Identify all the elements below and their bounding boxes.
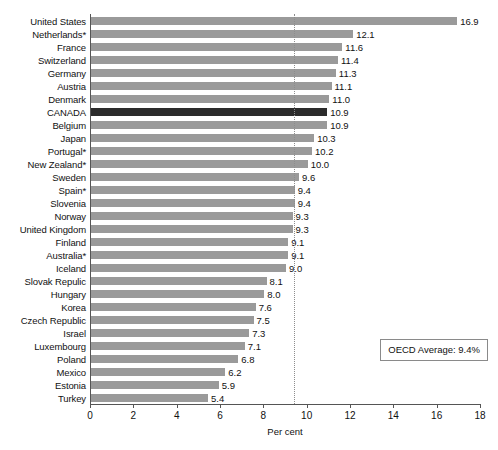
bar-row: Korea7.6 xyxy=(0,301,498,314)
bar xyxy=(91,277,267,285)
category-label: Sweden xyxy=(0,171,86,184)
bar xyxy=(91,186,295,194)
x-axis-tick xyxy=(393,404,394,408)
category-label: Estonia xyxy=(0,379,86,392)
bar-highlight xyxy=(91,108,327,116)
x-axis-tick xyxy=(90,404,91,408)
category-label: Norway xyxy=(0,210,86,223)
bar xyxy=(91,264,286,272)
x-axis-tick-label: 16 xyxy=(417,409,457,422)
bar-row: France11.6 xyxy=(0,41,498,54)
bar-value-label: 7.5 xyxy=(257,314,270,327)
bar-value-label: 5.9 xyxy=(222,379,235,392)
x-axis-tick xyxy=(437,404,438,408)
bar-value-label: 10.9 xyxy=(330,106,349,119)
category-label: Japan xyxy=(0,132,86,145)
bar-row: Denmark11.0 xyxy=(0,93,498,106)
bar xyxy=(91,342,245,350)
bar xyxy=(91,173,299,181)
x-axis-tick-label: 8 xyxy=(243,409,283,422)
bar-value-label: 10.3 xyxy=(317,132,336,145)
bar xyxy=(91,43,342,51)
bar xyxy=(91,17,457,25)
x-axis-tick xyxy=(307,404,308,408)
bar-row: Australia*9.1 xyxy=(0,249,498,262)
x-axis-tick xyxy=(350,404,351,408)
category-label: Belgium xyxy=(0,119,86,132)
bar-value-label: 6.8 xyxy=(241,353,254,366)
bar-value-label: 10.2 xyxy=(315,145,334,158)
bar-row: Norway9.3 xyxy=(0,210,498,223)
bar-row: United Kingdom9.3 xyxy=(0,223,498,236)
bar-row: Spain*9.4 xyxy=(0,184,498,197)
bar-row: Iceland9.0 xyxy=(0,262,498,275)
category-label: Poland xyxy=(0,353,86,366)
bar-row: Germany11.3 xyxy=(0,67,498,80)
bar-value-label: 7.6 xyxy=(259,301,272,314)
category-label: France xyxy=(0,41,86,54)
bar-value-label: 7.1 xyxy=(248,340,261,353)
x-axis-tick-label: 12 xyxy=(330,409,370,422)
x-axis-tick-label: 2 xyxy=(113,409,153,422)
x-axis-title: Per cent xyxy=(90,426,480,437)
bar xyxy=(91,134,314,142)
category-label: CANADA xyxy=(0,106,86,119)
bar-value-label: 9.4 xyxy=(298,197,311,210)
bar-value-label: 16.9 xyxy=(460,15,479,28)
bar-value-label: 11.6 xyxy=(345,41,363,54)
bar xyxy=(91,69,336,77)
bar-row: Czech Republic7.5 xyxy=(0,314,498,327)
bar-row: Mexico6.2 xyxy=(0,366,498,379)
bar-value-label: 8.1 xyxy=(270,275,283,288)
bar-row: Netherlands*12.1 xyxy=(0,28,498,41)
category-label: Luxembourg xyxy=(0,340,86,353)
bar xyxy=(91,251,288,259)
bar-row: Belgium10.9 xyxy=(0,119,498,132)
x-axis-tick-label: 0 xyxy=(70,409,110,422)
category-label: Hungary xyxy=(0,288,86,301)
bar-row: United States16.9 xyxy=(0,15,498,28)
bar-row: Turkey5.4 xyxy=(0,392,498,405)
bar-value-label: 9.3 xyxy=(296,210,309,223)
bar xyxy=(91,160,308,168)
category-label: United States xyxy=(0,15,86,28)
bar-value-label: 11.4 xyxy=(341,54,359,67)
bar xyxy=(91,355,238,363)
category-label: Iceland xyxy=(0,262,86,275)
x-axis-tick xyxy=(263,404,264,408)
bar-value-label: 10.9 xyxy=(330,119,349,132)
category-label: Switzerland xyxy=(0,54,86,67)
bar xyxy=(91,368,225,376)
bar xyxy=(91,290,264,298)
bar-row: New Zealand*10.0 xyxy=(0,158,498,171)
bar xyxy=(91,381,219,389)
bar-value-label: 9.4 xyxy=(298,184,311,197)
bar xyxy=(91,212,293,220)
bar xyxy=(91,238,288,246)
category-label: Australia* xyxy=(0,249,86,262)
category-label: Germany xyxy=(0,67,86,80)
bar-row: Israel7.3 xyxy=(0,327,498,340)
bar-row: Portugal*10.2 xyxy=(0,145,498,158)
category-label: Netherlands* xyxy=(0,28,86,41)
bar-value-label: 11.3 xyxy=(339,67,357,80)
category-label: Israel xyxy=(0,327,86,340)
bar-row: CANADA10.9 xyxy=(0,106,498,119)
bar-row: Finland9.1 xyxy=(0,236,498,249)
x-axis-tick-label: 18 xyxy=(460,409,498,422)
x-axis-tick xyxy=(133,404,134,408)
x-axis-tick-label: 4 xyxy=(157,409,197,422)
oecd-average-reference-line xyxy=(294,14,295,404)
category-label: Finland xyxy=(0,236,86,249)
category-label: Czech Republic xyxy=(0,314,86,327)
bar-value-label: 7.3 xyxy=(252,327,265,340)
x-axis-tick-label: 6 xyxy=(200,409,240,422)
bar-row: Hungary8.0 xyxy=(0,288,498,301)
bar-value-label: 11.1 xyxy=(335,80,353,93)
category-label: Denmark xyxy=(0,93,86,106)
bar-value-label: 8.0 xyxy=(267,288,280,301)
x-axis-tick xyxy=(480,404,481,408)
bar-value-label: 10.0 xyxy=(311,158,330,171)
x-axis-tick xyxy=(177,404,178,408)
x-axis-line xyxy=(90,404,481,405)
